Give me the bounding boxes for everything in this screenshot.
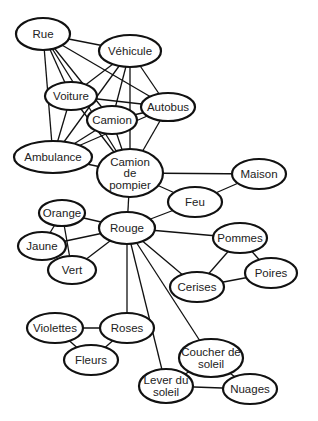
node-poires: Poires xyxy=(245,258,297,288)
node-label: Rouge xyxy=(110,222,144,234)
node-label: Lever du xyxy=(144,374,189,386)
node-violettes: Violettes xyxy=(27,313,83,343)
node-label: Poires xyxy=(255,267,288,279)
node-label: Vert xyxy=(62,264,83,276)
node-rouge: Rouge xyxy=(99,212,155,244)
node-label: Roses xyxy=(111,322,144,334)
node-camion: Camion xyxy=(87,106,137,134)
node-lever-du-soleil: Lever dusoleil xyxy=(139,369,193,403)
node-label: Camion xyxy=(92,114,132,126)
node-pommes: Pommes xyxy=(213,223,267,253)
node-autobus: Autobus xyxy=(141,93,195,121)
node-label: de xyxy=(124,167,137,179)
node-label: Ambulance xyxy=(24,151,82,163)
node-fleurs: Fleurs xyxy=(64,345,118,375)
node-label: Autobus xyxy=(147,101,189,113)
node-label: Violettes xyxy=(33,322,77,334)
node-rue: Rue xyxy=(16,18,70,50)
node-label: soleil xyxy=(153,386,179,398)
node-orange: Orange xyxy=(39,200,85,226)
node-label: pompier xyxy=(109,179,151,191)
node-label: Véhicule xyxy=(108,45,152,57)
node-label: Nuages xyxy=(230,383,270,395)
node-camion-de-pompier: Camiondepompier xyxy=(97,149,163,197)
node-ambulance: Ambulance xyxy=(14,141,92,173)
node-maison: Maison xyxy=(232,159,286,189)
node-vert: Vert xyxy=(48,256,96,284)
node-label: Feu xyxy=(185,196,205,208)
node-label: Rue xyxy=(32,28,53,40)
node-label: Maison xyxy=(240,168,277,180)
node-cerises: Cerises xyxy=(170,272,224,302)
node-coucher-de-soleil: Coucher desoleil xyxy=(179,339,243,377)
node-jaune: Jaune xyxy=(18,232,66,260)
node-label: Coucher de xyxy=(181,346,240,358)
node-label: Fleurs xyxy=(75,354,107,366)
edge-rouge-lever-du-soleil xyxy=(127,228,166,386)
node-roses: Roses xyxy=(100,313,154,343)
node-label: Voiture xyxy=(53,90,89,102)
node-label: Orange xyxy=(43,207,81,219)
node-vehicule: Véhicule xyxy=(99,35,161,67)
node-label: Jaune xyxy=(26,240,57,252)
node-label: Camion xyxy=(110,156,150,168)
node-label: Pommes xyxy=(217,232,263,244)
node-label: Cerises xyxy=(178,281,217,293)
node-label: soleil xyxy=(198,358,224,370)
node-feu: Feu xyxy=(168,187,222,217)
node-nuages: Nuages xyxy=(223,374,277,404)
node-voiture: Voiture xyxy=(45,82,97,110)
diagram-canvas: RueVéhiculeVoitureAutobusCamionAmbulance… xyxy=(0,0,318,421)
semantic-network-diagram: RueVéhiculeVoitureAutobusCamionAmbulance… xyxy=(0,0,318,421)
